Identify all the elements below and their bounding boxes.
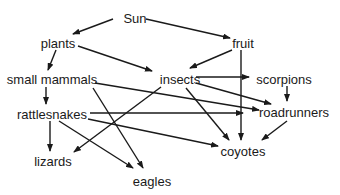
node-plants: plants xyxy=(41,37,76,50)
node-sun: Sun xyxy=(123,12,146,25)
edge-sun-to-fruit xyxy=(146,19,230,38)
node-roadrunners: roadrunners xyxy=(259,106,329,119)
node-coyotes: coyotes xyxy=(221,145,266,158)
edge-rattlesnakes-to-coyotes xyxy=(88,119,218,146)
node-eagles: eagles xyxy=(133,175,171,188)
edge-insects-to-lizards xyxy=(74,87,161,152)
edge-insects-to-coyotes xyxy=(186,88,229,140)
edge-small-mammals-to-roadrunners xyxy=(95,83,259,110)
node-fruit: fruit xyxy=(232,37,254,50)
edge-roadrunners-to-coyotes xyxy=(262,121,287,140)
node-lizards: lizards xyxy=(34,155,72,168)
node-scorpions: scorpions xyxy=(256,73,312,86)
edge-plants-to-small-mammals xyxy=(48,50,56,70)
food-web-diagram: Sun plants fruit small mammals insects s… xyxy=(0,0,340,195)
node-insects: insects xyxy=(160,73,200,86)
node-small-mammals: small mammals xyxy=(7,73,97,86)
edge-fruit-to-insects xyxy=(190,50,232,68)
edge-plants-to-insects xyxy=(78,46,152,71)
node-rattlesnakes: rattlesnakes xyxy=(17,108,87,121)
edge-small-mammals-to-eagles xyxy=(93,88,143,168)
edge-sun-to-plants xyxy=(73,19,113,34)
